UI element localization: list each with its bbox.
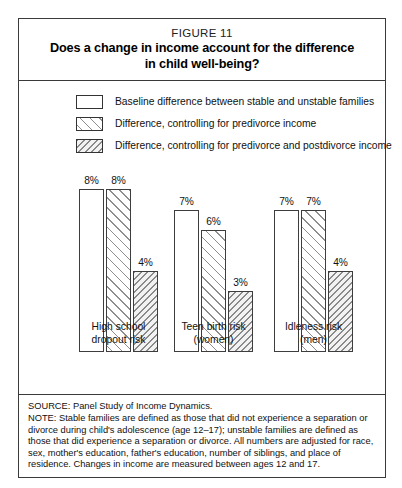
bar-group-label-line-1: Idleness risk — [285, 320, 342, 333]
bar-group-label-line-2: (women) — [181, 333, 245, 346]
bar-group-label: Teen birth risk(women) — [181, 320, 245, 346]
chart-legend: Baseline difference between stable and u… — [76, 91, 376, 157]
bar-value-label: 7% — [306, 196, 321, 207]
bar-group-label: Idleness risk(men) — [285, 320, 342, 346]
bar-value-label: 7% — [279, 196, 294, 207]
bar-group-label-line-1: High school — [92, 320, 146, 333]
legend-item-label: Difference, controlling for predivorce i… — [115, 118, 316, 130]
bar-group-label-line-1: Teen birth risk — [181, 320, 245, 333]
bar-value-label: 8% — [111, 175, 126, 186]
forward-hatch-swatch-icon — [76, 117, 103, 131]
bar-group-label: High schooldropout risk — [92, 320, 146, 346]
bar-groups-container: 8%8%4%High schooldropout risk7%6%3%Teen … — [19, 163, 385, 394]
bar-value-label: 4% — [333, 257, 348, 268]
bar-value-label: 8% — [84, 175, 99, 186]
legend-item: Difference, controlling for predivorce a… — [76, 135, 376, 156]
bar-group-label-line-2: dropout risk — [92, 333, 146, 346]
figure-title-line-1: Does a change in income account for the … — [29, 41, 375, 57]
bar-value-label: 4% — [138, 257, 153, 268]
bar-group-label-line-2: (men) — [285, 333, 342, 346]
figure-number: FIGURE 11 — [29, 26, 375, 40]
legend-item: Baseline difference between stable and u… — [76, 91, 376, 112]
legend-item-label: Difference, controlling for predivorce a… — [115, 140, 392, 152]
page-title: Does a change in income account for the … — [29, 41, 375, 72]
figure-header: FIGURE 11 Does a change in income accoun… — [19, 19, 385, 81]
back-hatch-swatch-icon — [76, 139, 103, 153]
note-text: NOTE: Stable families are defined as tho… — [28, 413, 377, 471]
bar-value-label: 6% — [206, 216, 221, 227]
legend-item: Difference, controlling for predivorce i… — [76, 113, 376, 134]
chart-plot-area: Baseline difference between stable and u… — [19, 81, 385, 395]
source-text: SOURCE: Panel Study of Income Dynamics. — [28, 401, 377, 413]
legend-item-label: Baseline difference between stable and u… — [115, 96, 374, 108]
bar-value-label: 7% — [179, 196, 194, 207]
figure-frame: FIGURE 11 Does a change in income accoun… — [18, 18, 386, 478]
bar-value-label: 3% — [233, 277, 248, 288]
plain-white-swatch-icon — [76, 95, 103, 109]
figure-title-line-2: in child well-being? — [29, 57, 375, 73]
figure-footer: SOURCE: Panel Study of Income Dynamics. … — [19, 395, 385, 477]
